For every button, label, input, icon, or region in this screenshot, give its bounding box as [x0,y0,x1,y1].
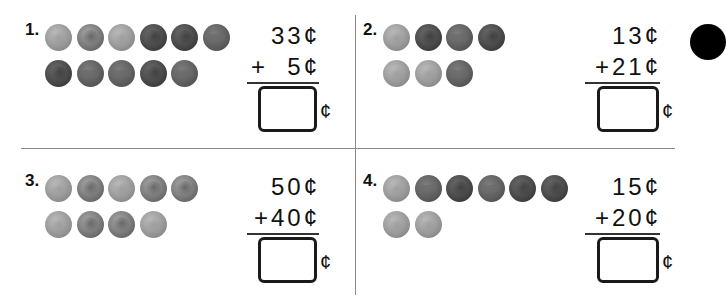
dime-coin-icon [383,175,410,202]
dime-coin-icon [77,211,104,238]
bottom-addend: +20¢ [595,205,661,231]
dime-coin-icon [415,60,442,87]
dime-coin-icon [108,211,135,238]
penny-coin-icon [108,60,135,87]
top-addend: 15¢ [612,174,661,200]
penny-coin-icon [203,24,230,51]
penny-coin-icon [140,24,167,51]
penny-coin-icon [77,60,104,87]
bottom-addend: +21¢ [595,54,661,80]
answer-box[interactable] [597,86,659,132]
dime-coin-icon [108,24,135,51]
dime-coin-icon [77,24,104,51]
problem-3: 3. 50¢ +40¢ ¢ [25,171,365,305]
problem-number: 3. [25,171,39,191]
bottom-addend: +40¢ [254,205,320,231]
dime-coin-icon [140,211,167,238]
problem-number: 1. [25,20,39,40]
problem-2: 2. 13¢ +21¢ ¢ [363,20,703,160]
penny-coin-icon [171,60,198,87]
dime-coin-icon [45,24,72,51]
penny-coin-icon [171,24,198,51]
penny-coin-icon [446,24,473,51]
sum-line [247,233,319,235]
answer-box[interactable] [258,237,317,283]
dime-coin-icon [140,175,167,202]
penny-coin-icon [415,175,442,202]
bottom-addend: + 5¢ [251,54,320,80]
penny-coin-icon [140,60,167,87]
sum-line [247,82,319,84]
cent-sign: ¢ [320,100,331,123]
dime-coin-icon [108,175,135,202]
dime-coin-icon [45,211,72,238]
penny-coin-icon [415,24,442,51]
problem-number: 4. [363,171,377,191]
penny-coin-icon [509,175,536,202]
dime-coin-icon [45,175,72,202]
penny-coin-icon [478,175,505,202]
top-addend: 13¢ [612,23,661,49]
answer-box[interactable] [597,237,659,283]
cent-sign: ¢ [320,251,331,274]
problem-number: 2. [363,20,377,40]
penny-coin-icon [446,175,473,202]
penny-coin-icon [541,175,568,202]
answer-box[interactable] [258,86,317,132]
dime-coin-icon [383,211,410,238]
dime-coin-icon [383,60,410,87]
dime-coin-icon [383,24,410,51]
cent-sign: ¢ [662,100,673,123]
dime-coin-icon [171,175,198,202]
problem-1: 1. 33¢ + 5¢ ¢ [25,20,365,160]
dime-coin-icon [77,175,104,202]
penny-coin-icon [446,60,473,87]
top-addend: 33¢ [271,23,320,49]
sum-line [585,233,660,235]
penny-coin-icon [45,60,72,87]
top-addend: 50¢ [271,174,320,200]
dime-coin-icon [415,211,442,238]
cent-sign: ¢ [662,251,673,274]
penny-coin-icon [478,24,505,51]
problem-4: 4. 15¢ +20¢ ¢ [363,171,703,305]
sum-line [585,82,660,84]
